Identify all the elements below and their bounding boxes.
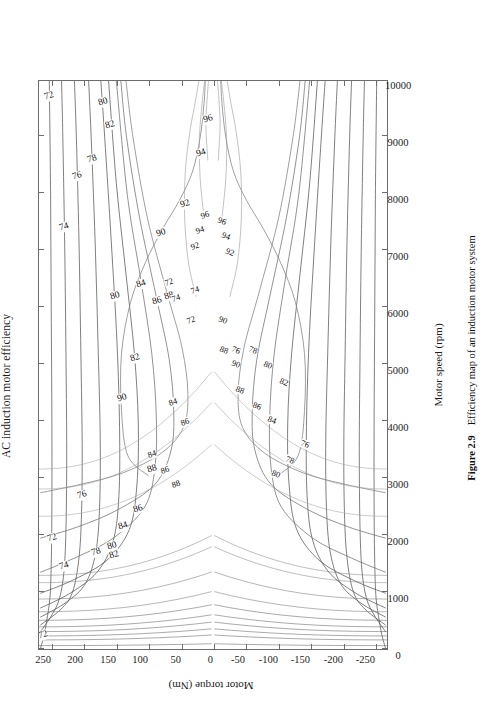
- y-tick-label: -250: [356, 654, 375, 665]
- y-axis-tick: [344, 644, 345, 649]
- y-axis-tick: [344, 81, 345, 86]
- y-axis-tick: [376, 644, 377, 649]
- contour-line-inner: [214, 629, 387, 636]
- y-tick-label: -50: [231, 654, 245, 665]
- x-axis-title: Motor speed (rpm): [432, 80, 444, 650]
- y-tick-label: -100: [259, 654, 278, 665]
- contour-line: [374, 81, 386, 649]
- y-axis-tick: [246, 81, 247, 86]
- y-axis-tick: [279, 644, 280, 649]
- contour-line-inner: [39, 644, 212, 646]
- x-axis-tick: [382, 534, 387, 535]
- contour-line: [218, 81, 221, 161]
- y-tick-label: -150: [291, 654, 310, 665]
- contour-line: [184, 81, 198, 297]
- contour-line: [40, 81, 52, 649]
- x-tick-label: 0: [395, 650, 400, 661]
- contour-line: [359, 81, 385, 632]
- y-axis-tick: [279, 81, 280, 86]
- y-axis-tick: [214, 644, 215, 649]
- figure-caption: Figure 2.9Efficiency map of an induction…: [466, 0, 477, 716]
- x-tick-label: 5000: [388, 365, 409, 376]
- y-axis-tick: [376, 81, 377, 86]
- x-axis-tick: [382, 135, 387, 136]
- x-tick-label: 6000: [388, 308, 409, 319]
- y-tick-label: 250: [35, 654, 51, 665]
- contour-line: [227, 81, 241, 297]
- y-tick-label: -200: [323, 654, 342, 665]
- contour-line: [269, 81, 385, 572]
- x-tick-label: 1000: [388, 593, 409, 604]
- x-axis-tick: [382, 648, 387, 649]
- x-tick-label: 3000: [388, 479, 409, 490]
- contour-line-inner: [39, 572, 212, 599]
- y-axis-tick: [117, 81, 118, 86]
- x-axis-tick: [39, 591, 44, 592]
- y-axis-tick: [311, 81, 312, 86]
- y-tick-label: 100: [132, 654, 148, 665]
- figure-caption-text: Efficiency map of an induction motor sys…: [466, 235, 477, 425]
- contour-line-inner: [214, 572, 387, 599]
- y-tick-label: 50: [170, 654, 181, 665]
- y-axis-tick: [52, 644, 53, 649]
- y-axis-tick: [311, 644, 312, 649]
- y-axis-tick: [149, 81, 150, 86]
- x-axis-tick: [39, 363, 44, 364]
- y-axis-tick: [84, 644, 85, 649]
- x-axis-tick: [382, 306, 387, 307]
- y-axis-tick: [149, 644, 150, 649]
- x-axis-tick: [39, 249, 44, 250]
- contour-line: [306, 81, 385, 608]
- contour-line: [326, 81, 386, 617]
- figure-caption-number: Figure 2.9: [466, 435, 477, 480]
- figure-root: AC induction motor efficiency 7272727474…: [0, 0, 504, 716]
- y-axis-tick: [182, 81, 183, 86]
- x-axis-tick: [39, 648, 44, 649]
- y-axis-tick: [117, 644, 118, 649]
- x-axis-tick: [39, 192, 44, 193]
- contour-line-inner: [39, 629, 212, 636]
- contour-plot-svg: [39, 81, 387, 649]
- y-axis-tick: [182, 644, 183, 649]
- x-axis-tick: [382, 363, 387, 364]
- x-tick-label: 2000: [388, 536, 409, 547]
- x-axis-tick: [39, 135, 44, 136]
- contour-line: [40, 81, 156, 572]
- x-axis-tick: [39, 420, 44, 421]
- contour-label: 86: [159, 464, 171, 475]
- x-axis-tick: [39, 534, 44, 535]
- contour-line-inner: [214, 592, 387, 612]
- y-tick-label: 150: [100, 654, 116, 665]
- x-axis-tick: [382, 420, 387, 421]
- x-axis-tick: [382, 192, 387, 193]
- x-tick-label: 8000: [388, 194, 409, 205]
- x-axis-tick: [382, 249, 387, 250]
- x-tick-label: 10000: [385, 80, 411, 91]
- x-tick-label: 9000: [388, 137, 409, 148]
- plot-area: 7272727474767678788080808282828484868688…: [38, 80, 388, 650]
- contour-line: [40, 81, 119, 608]
- x-tick-label: 4000: [388, 422, 409, 433]
- y-axis-title: Motor torque (Nm): [121, 680, 301, 692]
- contour-line-inner: [39, 592, 212, 612]
- contour-label: 84: [167, 396, 179, 407]
- contour-label: 84: [146, 448, 158, 459]
- x-axis-tick: [382, 591, 387, 592]
- contour-line: [40, 81, 66, 632]
- y-tick-label: 200: [68, 654, 84, 665]
- x-axis-tick: [39, 477, 44, 478]
- x-tick-label: 7000: [388, 251, 409, 262]
- plot-title: AC induction motor efficiency: [0, 56, 12, 716]
- x-axis-tick: [39, 306, 44, 307]
- contour-line: [40, 81, 82, 625]
- x-axis-tick: [382, 477, 387, 478]
- contour-line: [344, 81, 386, 625]
- contour-line-inner: [214, 644, 387, 646]
- y-axis-tick: [246, 644, 247, 649]
- y-tick-label: 0: [208, 654, 213, 665]
- y-axis-tick: [84, 81, 85, 86]
- y-axis-tick: [52, 81, 53, 86]
- y-axis-tick: [214, 81, 215, 86]
